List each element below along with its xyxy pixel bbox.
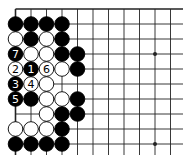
black-stone-icon [55, 17, 70, 32]
white-stone-icon [8, 32, 23, 47]
black-stone [8, 17, 23, 32]
move-number-label: 1 [28, 63, 35, 76]
white-stone [39, 77, 54, 92]
black-stone [24, 137, 39, 152]
white-stone-move-6: 6 [39, 62, 54, 77]
black-stone-icon [70, 92, 85, 107]
white-stone [39, 107, 54, 122]
black-stone [55, 17, 70, 32]
white-stone-icon [8, 122, 23, 137]
black-stone [39, 17, 54, 32]
black-stone-move-5: 5 [8, 92, 23, 107]
black-stone-icon [55, 32, 70, 47]
move-number-label: 5 [12, 93, 19, 106]
black-stone-icon [24, 17, 39, 32]
black-stone [39, 137, 54, 152]
star-point-icon [153, 142, 157, 146]
move-number-label: 4 [28, 78, 35, 91]
white-stone [39, 47, 54, 62]
white-stone [8, 122, 23, 137]
black-stone [70, 92, 85, 107]
black-stone [70, 62, 85, 77]
black-stone-icon [8, 17, 23, 32]
black-stone-icon [39, 137, 54, 152]
white-stone-icon [39, 32, 54, 47]
black-stone-icon [55, 107, 70, 122]
white-stone-icon [24, 47, 39, 62]
black-stone [24, 32, 39, 47]
black-stone-icon [70, 62, 85, 77]
go-board[interactable]: 7216345 [0, 0, 185, 159]
white-stone-move-2: 2 [8, 62, 23, 77]
black-stone-icon [55, 122, 70, 137]
white-stone-icon [39, 77, 54, 92]
black-stone-icon [70, 47, 85, 62]
black-stone-move-3: 3 [8, 77, 23, 92]
black-stone-icon [39, 17, 54, 32]
move-number-label: 2 [12, 63, 19, 76]
white-stone [39, 122, 54, 137]
white-stone [24, 122, 39, 137]
black-stone [70, 107, 85, 122]
black-stone [24, 92, 39, 107]
black-stone-icon [70, 107, 85, 122]
white-stone-icon [55, 62, 70, 77]
black-stone-icon [55, 47, 70, 62]
move-number-label: 3 [12, 78, 19, 91]
white-stone [55, 62, 70, 77]
black-stone-move-7: 7 [8, 47, 23, 62]
white-stone [55, 92, 70, 107]
white-stone-icon [39, 107, 54, 122]
black-stone [55, 107, 70, 122]
black-stone-icon [8, 137, 23, 152]
white-stone-icon [39, 122, 54, 137]
black-stone-icon [55, 137, 70, 152]
white-stone-move-4: 4 [24, 77, 39, 92]
move-number-label: 6 [43, 63, 50, 76]
white-stone-icon [39, 47, 54, 62]
black-stone [55, 47, 70, 62]
black-stone [55, 122, 70, 137]
white-stone [39, 92, 54, 107]
white-stone [8, 32, 23, 47]
black-stone [70, 47, 85, 62]
white-stone-icon [39, 92, 54, 107]
move-number-label: 7 [12, 48, 19, 61]
black-stone-icon [24, 32, 39, 47]
black-stone-move-1: 1 [24, 62, 39, 77]
black-stone [55, 137, 70, 152]
white-stone [24, 47, 39, 62]
white-stone [39, 32, 54, 47]
black-stone [8, 137, 23, 152]
white-stone-icon [24, 122, 39, 137]
black-stone-icon [24, 92, 39, 107]
black-stone-icon [24, 137, 39, 152]
black-stone [24, 17, 39, 32]
white-stone-icon [55, 92, 70, 107]
star-point-icon [153, 52, 157, 56]
black-stone [55, 32, 70, 47]
